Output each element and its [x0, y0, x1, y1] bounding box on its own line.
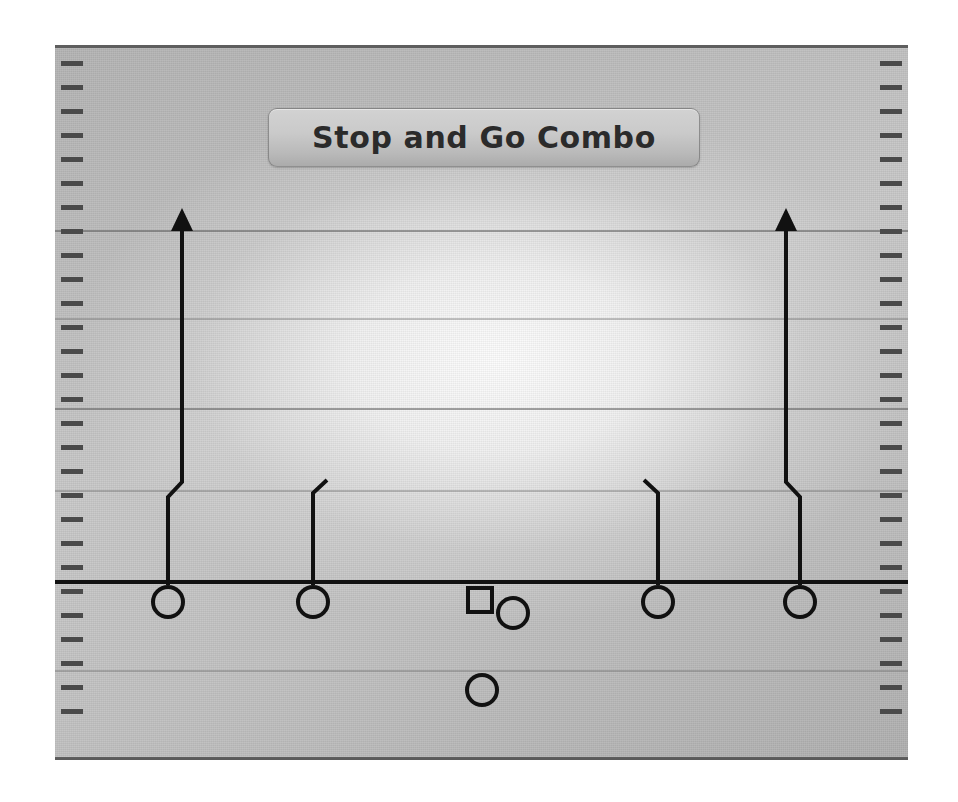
player-marker-wr-left-outside — [153, 587, 183, 617]
play-title-text: Stop and Go Combo — [312, 120, 656, 155]
player-marker-wr-right-outside — [785, 587, 815, 617]
player-marker-center — [468, 588, 492, 612]
route-right-inside — [644, 480, 658, 585]
route-right-outside — [786, 217, 800, 585]
route-left-outside-arrowhead-icon — [171, 208, 193, 231]
play-diagram-stage: Stop and Go Combo — [0, 0, 958, 802]
route-right-outside-arrowhead-icon — [775, 208, 797, 231]
player-marker-wr-left-inside — [298, 587, 328, 617]
player-marker-wr-right-inside — [643, 587, 673, 617]
route-left-inside — [313, 480, 327, 585]
play-title-plate: Stop and Go Combo — [268, 108, 700, 167]
routes-layer — [168, 208, 800, 585]
route-left-outside — [168, 217, 182, 585]
football-field: Stop and Go Combo — [55, 45, 908, 760]
player-marker-quarterback — [498, 598, 528, 628]
player-marker-runningback — [467, 675, 497, 705]
players-layer — [153, 587, 815, 705]
